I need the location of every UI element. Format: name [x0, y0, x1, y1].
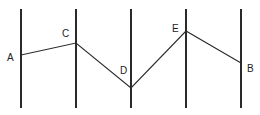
point-label-c: C: [62, 29, 69, 39]
vertical-lines: [21, 9, 241, 108]
point-label-e: E: [172, 24, 179, 34]
zigzag-diagram: [0, 0, 260, 115]
point-label-a: A: [7, 53, 14, 63]
point-label-b: B: [247, 64, 254, 74]
point-label-d: D: [120, 66, 127, 76]
